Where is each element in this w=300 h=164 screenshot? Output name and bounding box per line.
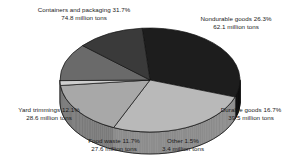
slice-label-line1: Other 1.5% (152, 137, 214, 145)
slice-label-durable-goods: Durable goods 16.7% 39.5 million tons (206, 106, 296, 122)
slice-label-line2: 74.8 million tons (28, 14, 140, 22)
slice-label-line1: Durable goods 16.7% (206, 106, 296, 114)
slice-label-other: Other 1.5% 3.4 million tons (152, 137, 214, 153)
slice-label-line1: Nondurable goods 26.3% (182, 15, 290, 23)
slice-label-containers-and-packaging: Containers and packaging 31.7% 74.8 mill… (28, 6, 140, 22)
slice-label-line2: 28.6 million tons (2, 114, 96, 122)
slice-label-line2: 3.4 million tons (152, 145, 214, 153)
slice-label-yard-trimmings: Yard trimmings 12.1% 28.6 million tons (2, 106, 96, 122)
slice-label-food-waste: Food waste 11.7% 27.6 million tons (74, 137, 154, 153)
pie-chart-figure: Containers and packaging 31.7% 74.8 mill… (0, 0, 300, 164)
slice-label-nondurable-goods: Nondurable goods 26.3% 62.1 million tons (182, 15, 290, 31)
slice-label-line2: 39.5 million tons (206, 114, 296, 122)
slice-label-line1: Containers and packaging 31.7% (28, 6, 140, 14)
slice-label-line2: 62.1 million tons (182, 23, 290, 31)
slice-label-line1: Food waste 11.7% (74, 137, 154, 145)
slice-label-line1: Yard trimmings 12.1% (2, 106, 96, 114)
slice-label-line2: 27.6 million tons (74, 145, 154, 153)
